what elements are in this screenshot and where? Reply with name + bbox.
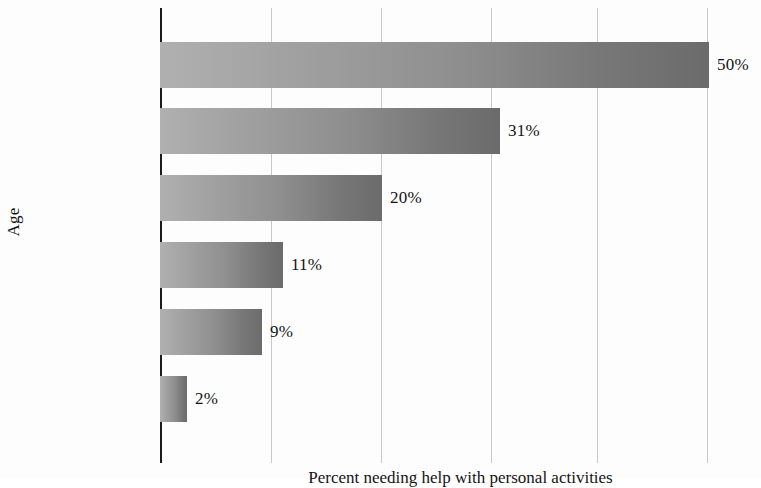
bar[interactable] [160, 376, 187, 422]
bar-value-label: 2% [195, 389, 218, 409]
bar-value-label: 31% [508, 121, 540, 141]
x-axis-title: Percent needing help with personal activ… [160, 468, 761, 488]
bar[interactable] [160, 242, 283, 288]
y-axis-title: Age [4, 182, 24, 262]
bar[interactable] [160, 309, 262, 355]
bar[interactable] [160, 42, 709, 88]
plot-area: 85 and over 50% 80–84 31% 75–79 20% 70–7… [160, 8, 761, 463]
bar-value-label: 20% [390, 188, 422, 208]
bar[interactable] [160, 108, 500, 154]
bar-value-label: 11% [291, 255, 322, 275]
bar-value-label: 9% [270, 322, 293, 342]
bar[interactable] [160, 175, 382, 221]
bar-value-label: 50% [717, 55, 749, 75]
